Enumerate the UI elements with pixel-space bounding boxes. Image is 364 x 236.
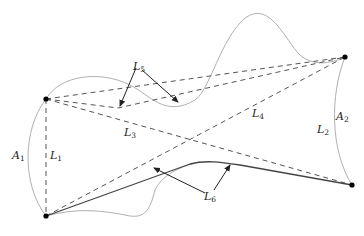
line-L6	[46, 162, 352, 216]
line-L3	[46, 99, 352, 185]
label-L1: L1	[49, 149, 62, 163]
label-L2: L2	[316, 123, 329, 137]
line-L5-dashed	[46, 57, 345, 108]
label-A2: A2	[335, 110, 349, 124]
line-L4	[46, 57, 345, 216]
arc-A1	[28, 99, 46, 216]
point-top-left	[43, 96, 48, 101]
label-L6: L6	[203, 190, 216, 204]
arrow-L6-right	[214, 165, 230, 190]
line-L3-upper	[46, 57, 345, 99]
label-L5: L5	[132, 60, 145, 74]
point-top-right	[342, 54, 347, 59]
label-A1: A1	[11, 149, 25, 163]
geometry-diagram: L5 L3 L4 A2 L2 A1 L1 L6	[0, 0, 364, 236]
label-L4: L4	[251, 107, 264, 121]
arrow-L5-right	[142, 70, 178, 102]
label-L3: L3	[123, 126, 136, 140]
point-bottom-left	[43, 213, 48, 218]
point-bottom-right	[349, 182, 354, 187]
